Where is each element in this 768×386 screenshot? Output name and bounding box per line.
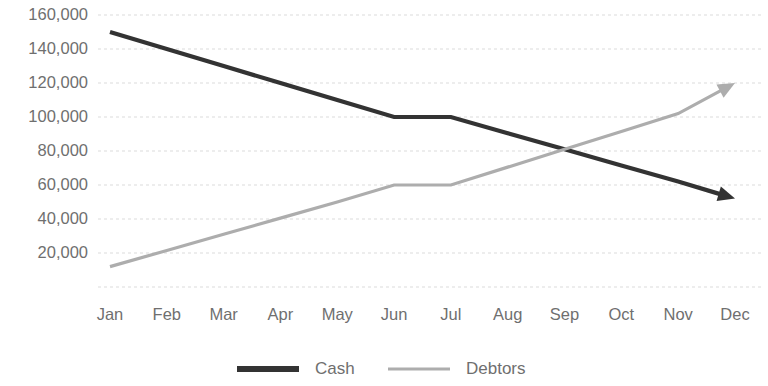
series-line-cash [110,32,723,195]
x-axis-tick-label: Apr [268,305,294,323]
legend-label-cash[interactable]: Cash [315,359,355,378]
legend-label-debtors[interactable]: Debtors [466,359,526,378]
y-axis-tick-label: 120,000 [28,73,88,91]
y-axis-tick-label: 60,000 [38,175,88,193]
x-axis-tick-label: Oct [609,305,635,323]
x-axis-tick-label: Dec [720,305,749,323]
x-axis-tick-label: Jul [440,305,461,323]
chart-canvas: 20,00040,00060,00080,000100,000120,00014… [0,0,768,386]
x-axis-tick-labels: JanFebMarAprMayJunJulAugSepOctNovDec [97,305,750,323]
line-chart: 20,00040,00060,00080,000100,000120,00014… [0,0,768,386]
y-axis-tick-labels: 20,00040,00060,00080,000100,000120,00014… [28,5,88,261]
x-axis-tick-label: Nov [664,305,694,323]
series-group [110,32,735,267]
y-axis-tick-label: 140,000 [28,39,88,57]
y-axis-tick-label: 100,000 [28,107,88,125]
x-axis-tick-label: Jan [97,305,124,323]
x-axis-tick-label: Feb [153,305,181,323]
x-axis-tick-label: Mar [209,305,238,323]
y-axis-tick-label: 40,000 [38,209,88,227]
arrowhead-icon-cash [717,187,735,201]
x-axis-tick-label: May [322,305,354,323]
x-axis-tick-label: Sep [550,305,579,323]
y-axis-tick-label: 20,000 [38,243,88,261]
y-axis-tick-label: 160,000 [28,5,88,23]
x-axis-tick-label: Jun [381,305,408,323]
chart-legend: CashDebtors [237,359,526,378]
y-axis-tick-label: 80,000 [38,141,88,159]
gridlines-group [98,15,762,287]
x-axis-tick-label: Aug [493,305,522,323]
